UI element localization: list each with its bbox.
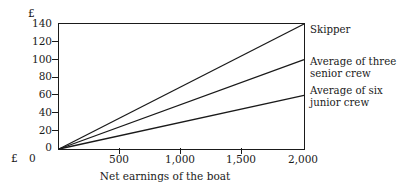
series-label-junior-crew: Average of six junior crew xyxy=(310,85,383,108)
y-tick-label-0: 0 xyxy=(6,142,52,152)
y-tick-label-20: 20 xyxy=(6,125,52,135)
series-line-senior-crew xyxy=(59,60,304,149)
plot-area xyxy=(58,23,305,150)
y-tick-label-40: 40 xyxy=(6,107,52,117)
x-tick-label-500: 500 xyxy=(99,153,139,165)
series-line-junior-crew xyxy=(59,95,304,149)
x-tick-label-1000: 1,000 xyxy=(160,153,200,165)
x-tick-label-1500: 1,500 xyxy=(221,153,261,165)
y-tick-label-80: 80 xyxy=(6,71,52,81)
x-tick-label-2000: 2,000 xyxy=(283,153,323,165)
x-tick-label-0: 0 xyxy=(29,152,36,164)
y-tick-label-60: 60 xyxy=(6,89,52,99)
series-line-skipper xyxy=(59,24,304,149)
series-label-skipper: Skipper xyxy=(310,24,350,36)
y-axis-labels: 140 120 100 80 60 40 20 0 xyxy=(0,0,52,192)
series-lines xyxy=(59,24,304,149)
series-label-senior-crew: Average of three senior crew xyxy=(310,56,396,79)
chart-figure: £ 140 120 100 80 60 40 20 0 500 1,000 1,… xyxy=(0,0,400,192)
y-tick-label-100: 100 xyxy=(6,54,52,64)
x-axis-title: Net earnings of the boat xyxy=(0,170,330,182)
x-axis-currency-symbol: £ xyxy=(11,152,18,164)
y-tick-label-120: 120 xyxy=(6,36,52,46)
y-tick-label-140: 140 xyxy=(6,18,52,28)
